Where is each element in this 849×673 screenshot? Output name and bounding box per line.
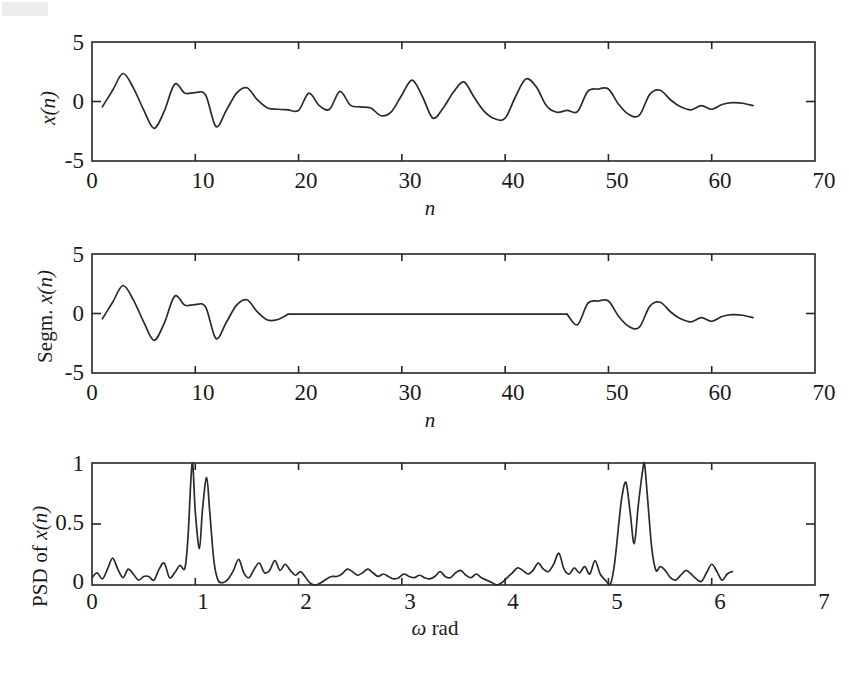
xtick-signal-4: 40 (493, 168, 533, 194)
xtick-segmented-2: 20 (286, 380, 326, 406)
panel-psd: PSD of x(n) 1 0.5 0 0 1 2 3 4 5 6 7 ω ra… (0, 430, 849, 673)
xtick-segmented-5: 50 (597, 380, 637, 406)
xtick-segmented-0: 0 (72, 380, 112, 406)
xtick-psd-3: 3 (390, 589, 430, 615)
xlabel-psd-suffix: rad (426, 616, 458, 640)
xtick-segmented-1: 10 (183, 380, 223, 406)
xtick-psd-4: 4 (493, 589, 533, 615)
series-psd (92, 462, 732, 585)
xtick-signal-0: 0 (72, 168, 112, 194)
series-first-segment (102, 286, 288, 341)
panel-signal: x(n) 5 0 -5 0 10 20 30 40 50 60 70 n (0, 0, 849, 225)
xtick-signal-7: 70 (804, 168, 844, 194)
xlabel-segmented-symbol: n (425, 408, 436, 432)
xtick-psd-6: 6 (700, 589, 740, 615)
xtick-signal-2: 20 (286, 168, 326, 194)
xtick-psd-5: 5 (597, 589, 637, 615)
xtick-segmented-7: 70 (804, 380, 844, 406)
xlabel-psd-symbol: ω (412, 616, 427, 640)
xtick-signal-1: 10 (183, 168, 223, 194)
series-second-segment (567, 300, 753, 329)
xtick-segmented-3: 30 (390, 380, 430, 406)
xtick-signal-6: 60 (700, 168, 740, 194)
xtick-psd-0: 0 (72, 589, 112, 615)
panel-segmented-signal: Segm. x(n) 5 0 -5 0 10 20 30 40 50 60 70… (0, 215, 849, 423)
xtick-psd-1: 1 (183, 589, 223, 615)
xtick-segmented-6: 60 (700, 380, 740, 406)
xlabel-psd: ω rad (390, 616, 480, 641)
xtick-psd-2: 2 (286, 589, 326, 615)
xtick-signal-5: 50 (597, 168, 637, 194)
xtick-signal-3: 30 (390, 168, 430, 194)
figure-container: x(n) 5 0 -5 0 10 20 30 40 50 60 70 n Seg… (0, 0, 849, 673)
series-signal (102, 74, 753, 129)
xtick-psd-7: 7 (804, 589, 844, 615)
xtick-segmented-4: 40 (493, 380, 533, 406)
